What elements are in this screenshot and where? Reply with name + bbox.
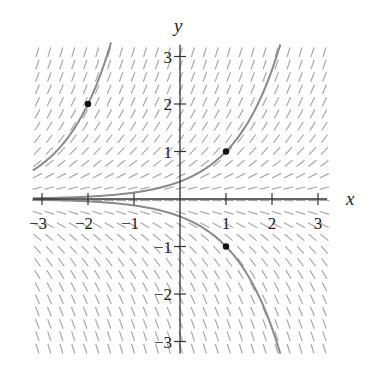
slope-segment bbox=[83, 283, 87, 291]
slope-segment bbox=[36, 344, 39, 353]
slope-field-diagram: −3−2−1123 −3−2−1123 x y bbox=[0, 0, 370, 369]
slope-segment bbox=[287, 320, 290, 329]
slope-segment bbox=[261, 235, 268, 241]
slope-segment bbox=[57, 187, 66, 189]
slope-segment bbox=[131, 98, 135, 106]
slope-segment bbox=[130, 246, 136, 253]
slope-segment bbox=[60, 85, 64, 94]
slope-segment bbox=[262, 135, 268, 142]
slope-segment bbox=[48, 332, 51, 341]
slope-segment bbox=[155, 307, 158, 316]
slope-segment bbox=[201, 235, 208, 241]
slope-segment bbox=[47, 98, 51, 106]
slope-segment bbox=[202, 122, 207, 130]
slope-segment bbox=[82, 235, 89, 241]
slope-segment bbox=[275, 295, 279, 303]
slope-segment bbox=[260, 187, 269, 189]
slope-segment bbox=[309, 161, 316, 167]
slope-segment bbox=[47, 135, 53, 142]
y-tick-label: −3 bbox=[154, 333, 172, 352]
slope-segment bbox=[323, 295, 327, 303]
slope-segment bbox=[35, 98, 39, 106]
slope-segment bbox=[237, 235, 244, 241]
slope-segment bbox=[131, 85, 135, 94]
slope-segment bbox=[251, 73, 254, 82]
slope-segment bbox=[178, 246, 184, 253]
slope-segment bbox=[215, 73, 218, 82]
slope-segment bbox=[155, 73, 158, 82]
slope-segment bbox=[262, 148, 268, 155]
slope-segment bbox=[263, 98, 267, 106]
slope-segment bbox=[239, 344, 242, 353]
slope-segment bbox=[310, 122, 315, 130]
slope-segment bbox=[239, 283, 243, 291]
slope-segment bbox=[309, 148, 315, 155]
slope-segment bbox=[36, 85, 40, 94]
slope-segment bbox=[166, 259, 171, 266]
slope-segment bbox=[311, 73, 314, 82]
slope-segment bbox=[167, 320, 170, 329]
slope-segment bbox=[239, 98, 243, 106]
slope-segment bbox=[213, 223, 221, 228]
solution-curve bbox=[33, 42, 111, 170]
slope-segment bbox=[96, 307, 99, 316]
slope-segment bbox=[239, 60, 242, 69]
slope-segment bbox=[263, 110, 267, 118]
slope-segment bbox=[287, 48, 290, 57]
slope-segment bbox=[48, 344, 51, 353]
slope-segment bbox=[83, 259, 88, 266]
slope-segment bbox=[214, 122, 219, 130]
slope-segment bbox=[251, 344, 254, 353]
slope-segment bbox=[298, 259, 303, 266]
slope-segment bbox=[297, 235, 304, 241]
slope-segment bbox=[60, 320, 63, 329]
slope-segment bbox=[227, 295, 231, 303]
slope-segment bbox=[310, 271, 315, 279]
slope-segment bbox=[142, 148, 148, 155]
slope-segment bbox=[131, 283, 135, 291]
slope-segment bbox=[251, 85, 255, 94]
slope-segment bbox=[189, 212, 198, 215]
x-tick-label: 3 bbox=[314, 214, 323, 233]
initial-point bbox=[223, 243, 229, 249]
slope-segment bbox=[200, 187, 209, 189]
slope-segment bbox=[108, 332, 111, 341]
slope-segment bbox=[177, 212, 186, 215]
slope-segment bbox=[188, 187, 197, 189]
slope-segment bbox=[275, 98, 279, 106]
slope-segment bbox=[93, 174, 101, 178]
slope-segment bbox=[237, 174, 245, 178]
slope-segment bbox=[95, 122, 100, 130]
slope-segment bbox=[59, 110, 63, 118]
slope-segment bbox=[165, 174, 173, 178]
slope-segment bbox=[58, 161, 65, 167]
slope-segment bbox=[239, 85, 243, 94]
slope-segment bbox=[203, 283, 207, 291]
slope-segment bbox=[275, 85, 279, 94]
slope-segment bbox=[296, 212, 305, 215]
slope-segment bbox=[84, 332, 87, 341]
slope-segment bbox=[275, 320, 278, 329]
slope-segment bbox=[108, 73, 111, 82]
slope-segment bbox=[249, 223, 257, 228]
slope-segment bbox=[60, 73, 63, 82]
slope-segment bbox=[286, 271, 291, 279]
slope-segment bbox=[130, 235, 137, 241]
slope-segment bbox=[35, 110, 39, 118]
slope-segment bbox=[238, 148, 244, 155]
initial-point bbox=[85, 101, 91, 107]
slope-segment bbox=[143, 73, 146, 82]
slope-segment bbox=[322, 122, 327, 130]
slope-segment bbox=[94, 161, 101, 167]
slope-segment bbox=[144, 344, 147, 353]
slope-segment bbox=[120, 332, 123, 341]
slope-segment bbox=[189, 235, 196, 241]
slope-segment bbox=[34, 246, 40, 253]
slope-segment bbox=[117, 187, 126, 189]
slope-segment bbox=[191, 98, 195, 106]
slope-field-plot: −3−2−1123 −3−2−1123 x y bbox=[0, 0, 370, 369]
slope-segment bbox=[286, 246, 292, 253]
slope-segment bbox=[191, 271, 196, 279]
slope-segment bbox=[95, 259, 100, 266]
slope-segment bbox=[132, 48, 135, 57]
